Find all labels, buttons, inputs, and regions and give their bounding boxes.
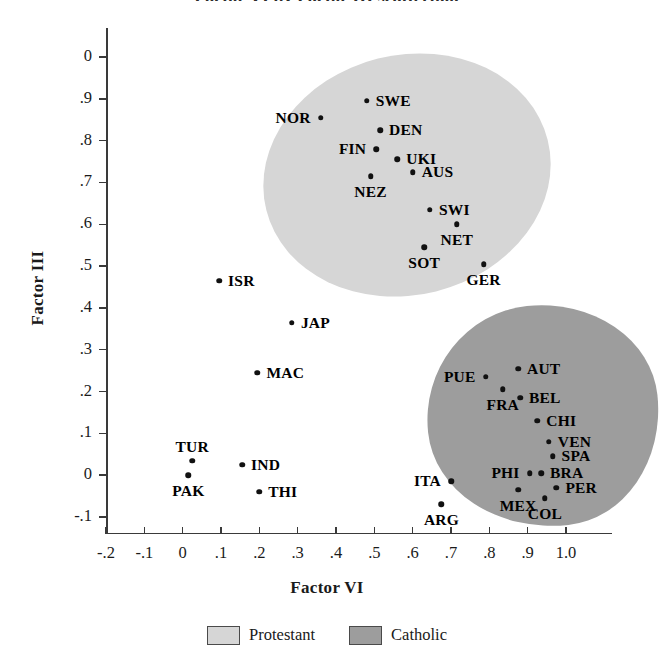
- y-tick-mark: [99, 391, 107, 393]
- data-point-label-jap: JAP: [301, 315, 330, 331]
- data-point-label-phi: PHI: [491, 465, 519, 481]
- data-point-aus[interactable]: [410, 169, 416, 175]
- data-point-tur[interactable]: [190, 458, 196, 464]
- x-tick-mark: [182, 527, 184, 534]
- legend: ProtestantCatholic: [0, 626, 654, 645]
- legend-label-protestant: Protestant: [249, 627, 315, 644]
- x-tick-mark: [374, 527, 376, 534]
- data-point-ind[interactable]: [239, 462, 245, 468]
- data-point-label-ita: ITA: [414, 473, 441, 489]
- data-point-label-den: DEN: [389, 122, 422, 138]
- x-axis-title: Factor VI: [0, 578, 654, 598]
- y-tick-label: .8: [48, 132, 92, 149]
- data-point-label-spa: SPA: [562, 448, 591, 464]
- data-point-mac[interactable]: [255, 370, 261, 376]
- y-tick-mark: [99, 474, 107, 476]
- data-point-uki[interactable]: [395, 157, 401, 163]
- data-point-label-net: NET: [441, 232, 473, 248]
- data-point-swi[interactable]: [427, 207, 433, 213]
- data-point-aut[interactable]: [515, 366, 521, 372]
- data-point-label-pak: PAK: [172, 483, 204, 499]
- y-tick-label: .6: [48, 215, 92, 232]
- y-tick-label: -.1: [48, 508, 92, 525]
- y-axis-title: Factor III: [28, 228, 48, 348]
- protestant-cluster-region: [237, 23, 576, 326]
- data-point-spa[interactable]: [550, 454, 556, 460]
- data-point-ger[interactable]: [481, 261, 487, 267]
- data-point-swe[interactable]: [364, 98, 370, 104]
- y-tick-mark: [99, 98, 107, 100]
- y-tick-label: .1: [48, 424, 92, 441]
- x-tick-mark: [565, 527, 567, 534]
- y-tick-label: .9: [48, 90, 92, 107]
- legend-label-catholic: Catholic: [391, 627, 447, 644]
- data-point-label-fra: FRA: [487, 397, 519, 413]
- y-tick-mark: [99, 224, 107, 226]
- y-tick-label: .5: [48, 257, 92, 274]
- data-point-label-thi: THI: [268, 484, 297, 500]
- y-tick-label: .3: [48, 341, 92, 358]
- data-point-pue[interactable]: [483, 374, 489, 380]
- data-point-phi[interactable]: [527, 470, 533, 476]
- data-point-den[interactable]: [377, 127, 383, 133]
- data-point-bra[interactable]: [538, 470, 544, 476]
- x-tick-label: 1.0: [543, 545, 589, 562]
- y-tick-mark: [99, 182, 107, 184]
- y-tick-mark: [99, 516, 107, 518]
- legend-item-protestant[interactable]: Protestant: [207, 626, 315, 645]
- x-tick-mark: [297, 527, 299, 534]
- x-tick-mark: [259, 527, 261, 534]
- data-point-label-swi: SWI: [439, 202, 470, 218]
- x-tick-mark: [105, 527, 107, 534]
- y-tick-label: 0: [48, 466, 92, 483]
- data-point-chi[interactable]: [535, 418, 541, 424]
- data-point-col[interactable]: [542, 495, 548, 501]
- data-point-label-fin: FIN: [339, 141, 366, 157]
- data-point-label-aut: AUT: [527, 361, 560, 377]
- x-tick-mark: [412, 527, 414, 534]
- data-point-fra[interactable]: [500, 387, 506, 393]
- data-point-label-nor: NOR: [276, 110, 311, 126]
- x-tick-mark: [489, 527, 491, 534]
- data-point-label-swe: SWE: [376, 93, 411, 109]
- y-tick-mark: [99, 307, 107, 309]
- data-point-per[interactable]: [554, 485, 560, 491]
- data-point-pak[interactable]: [186, 472, 192, 478]
- data-point-label-col: COL: [528, 506, 562, 522]
- data-point-bel[interactable]: [517, 395, 523, 401]
- data-point-label-arg: ARG: [424, 512, 459, 528]
- y-axis-line: [106, 28, 108, 534]
- data-point-arg[interactable]: [439, 502, 445, 508]
- data-point-sot[interactable]: [421, 245, 427, 251]
- legend-item-catholic[interactable]: Catholic: [349, 626, 447, 645]
- data-point-label-isr: ISR: [228, 273, 254, 289]
- data-point-label-tur: TUR: [176, 439, 209, 455]
- data-point-thi[interactable]: [257, 489, 263, 495]
- data-point-label-ger: GER: [466, 272, 500, 288]
- data-point-ven[interactable]: [546, 439, 552, 445]
- data-point-label-chi: CHI: [546, 413, 576, 429]
- data-point-jap[interactable]: [289, 320, 295, 326]
- y-tick-mark: [99, 433, 107, 435]
- y-tick-label: .4: [48, 299, 92, 316]
- data-point-label-bel: BEL: [529, 390, 561, 406]
- x-tick-mark: [144, 527, 146, 534]
- y-tick-label: 0: [48, 48, 92, 65]
- x-tick-mark: [527, 527, 529, 534]
- data-point-nor[interactable]: [318, 115, 324, 121]
- y-tick-label: .7: [48, 173, 92, 190]
- data-point-ita[interactable]: [448, 479, 454, 485]
- y-tick-mark: [99, 56, 107, 58]
- data-point-fin[interactable]: [374, 146, 380, 152]
- data-point-isr[interactable]: [216, 278, 222, 284]
- x-tick-mark: [220, 527, 222, 534]
- y-tick-mark: [99, 349, 107, 351]
- catholic-cluster-region: [416, 293, 663, 538]
- data-point-label-ind: IND: [251, 457, 280, 473]
- data-point-net[interactable]: [454, 222, 460, 228]
- x-tick-mark: [335, 527, 337, 534]
- data-point-nez[interactable]: [368, 173, 374, 179]
- legend-swatch-catholic: [349, 626, 382, 645]
- data-point-mex[interactable]: [515, 487, 521, 493]
